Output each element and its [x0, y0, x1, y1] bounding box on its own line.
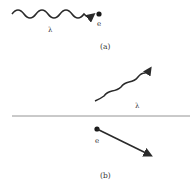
electron-label: e	[95, 137, 99, 145]
electron-label: e	[97, 20, 101, 28]
caption-b: (b)	[100, 171, 111, 180]
caption-a: (a)	[100, 42, 110, 51]
wavelength-label: λ	[135, 102, 140, 110]
electron-dot	[96, 11, 101, 16]
recoil-electron-arrow	[97, 129, 150, 155]
wavelength-label: λ	[48, 26, 53, 34]
compton-scattering-diagram: e λ (a) λ e (b)	[0, 0, 192, 189]
panel-a: e λ (a)	[12, 10, 110, 51]
panel-b: λ e (b)	[12, 69, 190, 180]
scattered-photon-wave	[95, 69, 150, 101]
incident-photon-wave	[12, 10, 93, 18]
